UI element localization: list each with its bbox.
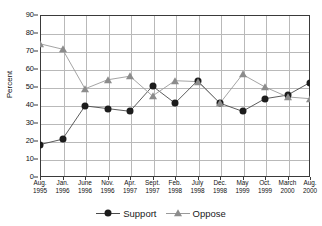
data-point-oppose [284, 93, 292, 100]
data-point-oppose [104, 76, 112, 83]
y-tick-label: 20 [26, 137, 34, 145]
data-point-oppose [194, 78, 202, 85]
x-tick-mark [108, 177, 109, 180]
legend-item-oppose[interactable]: Oppose [166, 208, 226, 219]
data-point-oppose [59, 45, 67, 52]
x-tick-mark [85, 177, 86, 180]
data-point-oppose [239, 71, 247, 78]
x-tick-mark [265, 177, 266, 180]
y-tick-label: 60 [26, 65, 34, 73]
data-point-support [149, 83, 156, 90]
chart-legend: SupportOppose [0, 205, 322, 221]
data-point-support [82, 102, 89, 109]
y-tick-mark [34, 51, 38, 52]
chart-figure: Percent 0102030405060708090 Aug.1995Jan.… [0, 0, 322, 226]
y-tick-label: 50 [26, 83, 34, 91]
series-lines [40, 15, 310, 177]
data-point-oppose [306, 95, 310, 102]
x-axis-ticks: Aug.1995Jan.1996June1996Nov.1996Apr.1997… [40, 179, 310, 203]
x-tick-mark [40, 177, 41, 180]
data-point-support [127, 108, 134, 115]
x-tick-mark [198, 177, 199, 180]
y-tick-label: 90 [26, 11, 34, 19]
data-point-oppose [216, 99, 224, 106]
y-tick-label: 30 [26, 119, 34, 127]
series-line-oppose [40, 44, 310, 103]
x-tick-mark [310, 177, 311, 180]
y-tick-label: 10 [26, 155, 34, 163]
y-tick-mark [34, 69, 38, 70]
data-point-oppose [40, 40, 44, 47]
y-tick-mark [34, 141, 38, 142]
data-point-support [262, 95, 269, 102]
series-layer [40, 15, 310, 177]
y-tick-label: 70 [26, 47, 34, 55]
data-point-oppose [149, 92, 157, 99]
y-tick-mark [34, 105, 38, 106]
x-tick-label-month: Aug. [290, 179, 322, 187]
y-axis-ticks: 0102030405060708090 [0, 15, 38, 177]
x-tick-mark [153, 177, 154, 180]
legend-triangle-icon [166, 209, 190, 218]
data-point-support [104, 105, 111, 112]
x-tick-label: Aug.2000 [290, 179, 322, 194]
y-tick-label: 80 [26, 29, 34, 37]
legend-label: Support [123, 208, 156, 219]
y-tick-mark [34, 159, 38, 160]
x-tick-mark [288, 177, 289, 180]
data-point-oppose [126, 72, 134, 79]
legend-label: Oppose [193, 208, 226, 219]
y-tick-mark [34, 33, 38, 34]
data-point-support [307, 79, 311, 86]
x-tick-mark [243, 177, 244, 180]
data-point-oppose [171, 77, 179, 84]
data-point-oppose [261, 83, 269, 90]
x-tick-mark [130, 177, 131, 180]
data-point-oppose [81, 85, 89, 92]
y-tick-mark [34, 15, 38, 16]
y-tick-label: 40 [26, 101, 34, 109]
chart-title [0, 0, 322, 2]
y-tick-mark [34, 87, 38, 88]
x-tick-mark [63, 177, 64, 180]
y-tick-mark [34, 123, 38, 124]
data-point-support [172, 100, 179, 107]
y-tick-mark [34, 177, 38, 178]
data-point-support [239, 108, 246, 115]
x-tick-mark [175, 177, 176, 180]
legend-circle-icon [96, 209, 120, 218]
data-point-support [59, 136, 66, 143]
legend-item-support[interactable]: Support [96, 208, 156, 219]
x-tick-label-year: 2000 [290, 187, 322, 195]
x-tick-mark [220, 177, 221, 180]
